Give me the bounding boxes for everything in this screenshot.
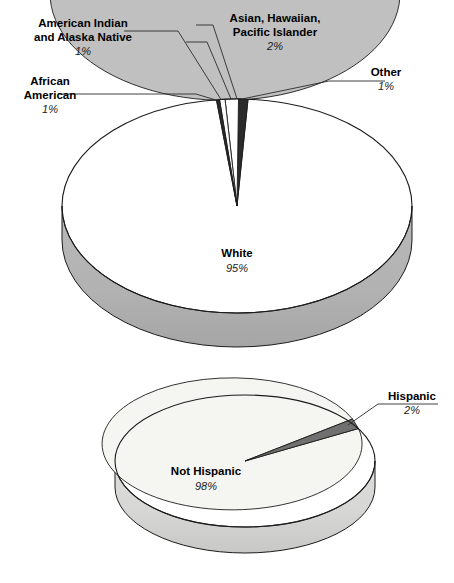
label-african-american-line1: African <box>30 75 70 87</box>
label-asian-line2: Pacific Islander <box>233 26 318 38</box>
race-pie-3d-side <box>62 206 412 347</box>
pie-charts-figure: American Indian and Alaska Native 1% Afr… <box>0 0 454 583</box>
label-african-american-pct: 1% <box>42 103 58 115</box>
label-hispanic-pct: 2% <box>403 404 420 416</box>
label-american-indian-pct: 1% <box>75 45 91 57</box>
label-white: White <box>221 247 252 259</box>
label-not-hispanic-pct: 98% <box>195 480 217 492</box>
race-pie-chart: American Indian and Alaska Native 1% Afr… <box>24 0 412 347</box>
label-other: Other <box>371 66 402 78</box>
label-american-indian-line1: American Indian <box>38 17 127 29</box>
ethnicity-pie-chart: Hispanic 2% Not Hispanic 98% <box>102 378 438 553</box>
label-white-pct: 95% <box>226 262 248 274</box>
label-african-american-line2: American <box>24 89 76 101</box>
label-asian-pct: 2% <box>266 40 283 52</box>
label-not-hispanic: Not Hispanic <box>171 465 242 477</box>
label-hispanic: Hispanic <box>388 390 437 402</box>
label-american-indian-line2: and Alaska Native <box>34 31 132 43</box>
figure-root: American Indian and Alaska Native 1% Afr… <box>0 0 454 583</box>
leader-line-hispanic <box>348 404 438 425</box>
label-other-pct: 1% <box>378 80 394 92</box>
ethnicity-pie-leader-lines <box>348 404 438 425</box>
race-pie-side-wall <box>62 206 412 347</box>
label-asian-line1: Asian, Hawaiian, <box>230 12 321 24</box>
ethnicity-slice-not-hispanic[interactable] <box>102 378 362 510</box>
